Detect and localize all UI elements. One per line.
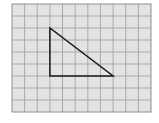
diagram-canvas [0, 0, 159, 123]
grid-background [12, 4, 151, 112]
grid-paper [0, 0, 159, 123]
